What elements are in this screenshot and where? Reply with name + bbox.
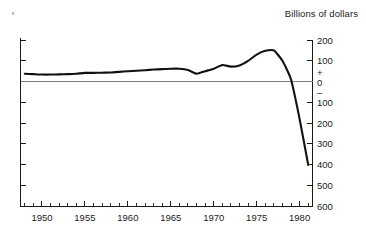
y-tick-label: 400: [317, 159, 333, 170]
y-tick-label: 600: [317, 201, 333, 212]
y-tick-label: 200: [317, 35, 333, 46]
x-tick-label: 1980: [289, 212, 310, 223]
chart-figure: Billions of dollars: [0, 0, 366, 239]
left-axis-ticks: [21, 40, 27, 185]
x-tick-label: 1965: [160, 212, 181, 223]
scan-speck: [12, 12, 14, 15]
x-axis-labels: 1950195519601965197019751980: [31, 212, 310, 223]
chart-plot-area: 200 100 + 0 – 100 200 300 400 500 600 19…: [0, 0, 366, 239]
y-axis-labels: 200 100 + 0 – 100 200 300 400 500 600: [317, 35, 333, 212]
x-tick-label: 1955: [74, 212, 95, 223]
x-tick-label: 1970: [203, 212, 224, 223]
y-tick-label: 100: [317, 97, 333, 108]
x-tick-label: 1960: [117, 212, 138, 223]
y-tick-label: 100: [317, 55, 333, 66]
y-tick-label: 200: [317, 118, 333, 129]
x-tick-label: 1975: [246, 212, 267, 223]
chart-axis-title: Billions of dollars: [285, 8, 358, 19]
y-tick-label: 300: [317, 138, 333, 149]
y-tick-label: 500: [317, 180, 333, 191]
series-line-balance: [25, 50, 308, 165]
x-axis-major-ticks: [42, 201, 300, 206]
x-tick-label: 1950: [31, 212, 52, 223]
